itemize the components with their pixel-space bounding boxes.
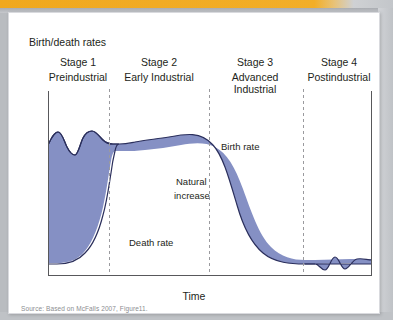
- source-note: Source: Based on McFalls 2007, Figure11.: [21, 305, 148, 312]
- page-right-edge: [378, 8, 393, 320]
- stage-4-fill: [305, 257, 372, 270]
- x-axis-label: Time: [9, 290, 379, 302]
- birth-rate-label: Birth rate: [221, 141, 260, 152]
- death-rate-label: Death rate: [129, 237, 173, 248]
- accent-top-bar: [0, 0, 393, 8]
- stage-4-oscillations: [305, 257, 372, 270]
- figure-card: Birth/death rates Stage 1 Preindustrial …: [8, 12, 380, 314]
- natural-increase-label-line-2: increase: [174, 190, 210, 201]
- demographic-transition-chart: [9, 13, 379, 313]
- natural-increase-label-line-1: Natural: [176, 176, 207, 187]
